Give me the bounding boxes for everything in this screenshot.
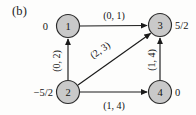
node-3[interactable]: 3: [149, 14, 172, 37]
edge-label-1-3: (0, 1): [103, 10, 125, 22]
node-1-potential: 0: [43, 21, 48, 32]
graph-canvas: (0, 1) (0, 2) (2, 3) (1, 4) (1, 4) 1 3 2: [0, 0, 196, 115]
node-1[interactable]: 1: [57, 15, 80, 38]
node-4[interactable]: 4: [149, 81, 172, 104]
edge-label-2-1: (0, 2): [51, 50, 63, 72]
node-2-potential: −5/2: [34, 87, 53, 98]
edge-label-4-3: (1, 4): [146, 49, 158, 71]
node-3-potential: 5/2: [175, 20, 188, 31]
edge-2-to-3: [78, 34, 151, 86]
node-1-label: 1: [65, 21, 70, 32]
node-3-label: 3: [157, 20, 162, 31]
node-4-potential: 0: [175, 87, 180, 98]
edge-label-2-3: (2, 3): [88, 39, 113, 61]
edge-1-to-3: [80, 26, 148, 27]
edge-label-2-4: (1, 4): [103, 100, 125, 112]
node-2[interactable]: 2: [57, 81, 80, 104]
node-4-label: 4: [157, 87, 163, 98]
node-2-label: 2: [65, 87, 70, 98]
figure-panel: (b) (0, 1) (0, 2) (2, 3) (1, 4) (1, 4): [0, 0, 196, 115]
